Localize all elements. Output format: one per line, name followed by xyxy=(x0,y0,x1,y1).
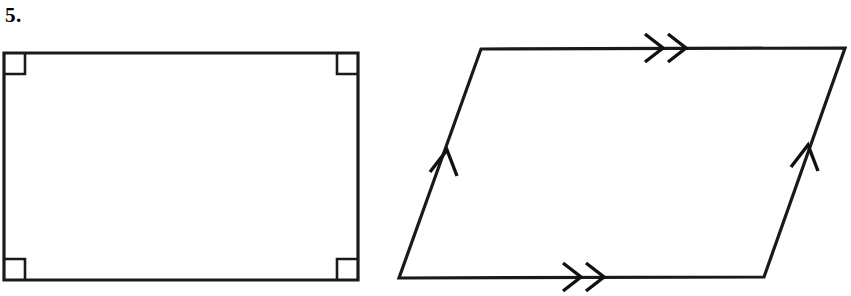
parallelogram-figure xyxy=(399,34,845,291)
chevron-glyph xyxy=(563,263,581,291)
right-angle-mark-bottom-left xyxy=(4,259,25,280)
chevron-mark-left-edge xyxy=(430,150,457,176)
chevron-glyph xyxy=(668,34,686,62)
chevron-glyph xyxy=(586,263,604,291)
rectangle-outline xyxy=(4,53,358,280)
chevron-mark-right-edge xyxy=(791,145,818,171)
right-angle-mark-top-left xyxy=(4,53,25,74)
chevron-mark-top-edge xyxy=(645,34,686,62)
rectangle-figure xyxy=(4,53,358,280)
right-angle-mark-bottom-right xyxy=(337,259,358,280)
chevron-glyph xyxy=(430,150,457,176)
problem-number-label: 5. xyxy=(5,1,22,29)
worksheet-canvas: 5. xyxy=(0,0,851,296)
geometry-figures-svg xyxy=(0,0,851,296)
right-angle-mark-top-right xyxy=(337,53,358,74)
chevron-glyph xyxy=(645,34,663,62)
chevron-mark-bottom-edge xyxy=(563,263,604,291)
parallelogram-outline xyxy=(399,48,845,278)
chevron-glyph xyxy=(791,145,818,171)
